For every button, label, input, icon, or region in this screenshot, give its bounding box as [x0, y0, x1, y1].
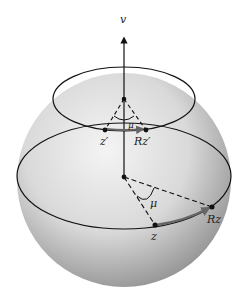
point-z-prime [103, 128, 108, 133]
axis-label-v: v [120, 13, 127, 26]
label-Rz: Rz [206, 213, 221, 226]
angle-label-small: μ [128, 120, 134, 130]
sphere-diagram: v μ z′ Rz′ μ z Rz [0, 0, 248, 304]
label-z: z [150, 230, 157, 243]
point-Rz-prime [144, 128, 149, 133]
label-Rz-prime: Rz′ [133, 135, 151, 148]
angle-label-large: μ [150, 197, 157, 210]
point-Rz [210, 205, 215, 210]
rotation-arc-small [106, 129, 143, 130]
point-z [153, 223, 158, 228]
label-z-prime: z′ [99, 135, 109, 148]
